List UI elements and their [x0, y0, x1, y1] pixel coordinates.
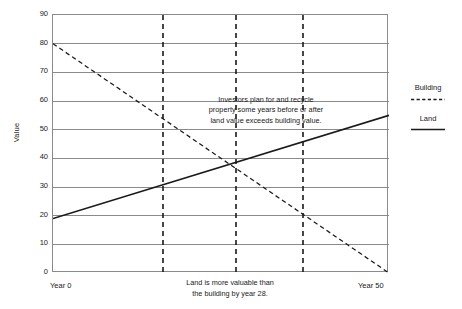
x-axis-label-start: Year 0 — [50, 281, 71, 290]
plot-annotation-line-2: property some years before or after — [171, 105, 361, 115]
y-axis-title: Value — [12, 103, 21, 163]
plot-annotation-line-1: Investors plan for and recycle — [171, 95, 361, 105]
vertical-marker-lines — [163, 15, 303, 273]
y-tick-20: 20 — [22, 211, 48, 219]
legend-label-building: Building — [398, 84, 458, 92]
plot-svg — [53, 15, 389, 273]
y-tick-10: 10 — [22, 240, 48, 248]
y-tick-30: 30 — [22, 182, 48, 190]
bottom-caption-line-2: the building by year 28. — [150, 289, 310, 300]
bottom-caption-line-1: Land is more valuable than — [150, 278, 310, 289]
y-axis-tick-labels: 90 80 70 60 50 40 30 20 10 0 — [22, 14, 48, 272]
x-axis-label-end: Year 50 — [358, 281, 384, 290]
y-tick-80: 80 — [22, 39, 48, 47]
chart-legend: Building Land — [398, 84, 458, 145]
value-over-time-chart: Value 90 80 70 60 50 40 30 20 10 0 — [0, 0, 462, 309]
plot-annotation-line-3: land value exceeds building value. — [171, 116, 361, 126]
legend-label-land: Land — [398, 115, 458, 123]
y-tick-70: 70 — [22, 68, 48, 76]
y-tick-40: 40 — [22, 154, 48, 162]
y-tick-0: 0 — [22, 268, 48, 276]
gridlines — [53, 44, 389, 245]
legend-swatch-building-dashed-line — [398, 98, 458, 106]
legend-swatch-land-solid-line — [398, 128, 458, 136]
series-line-land — [53, 115, 389, 218]
plot-area: Investors plan for and recycle property … — [52, 14, 388, 272]
y-tick-50: 50 — [22, 125, 48, 133]
y-tick-90: 90 — [22, 10, 48, 18]
plot-annotation: Investors plan for and recycle property … — [171, 95, 361, 126]
y-tick-60: 60 — [22, 96, 48, 104]
bottom-caption: Land is more valuable than the building … — [150, 278, 310, 299]
